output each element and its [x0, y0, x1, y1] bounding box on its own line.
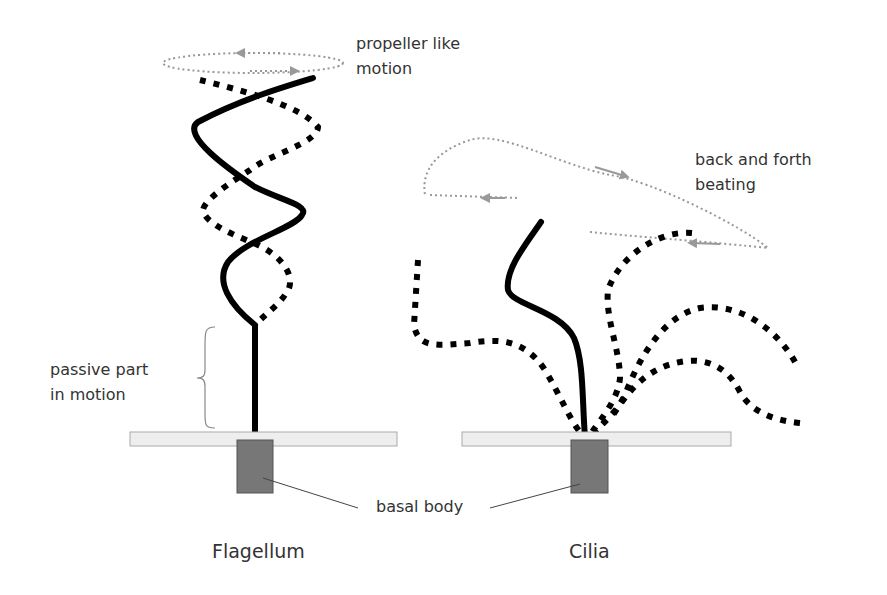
flagellum-basal-body [237, 440, 273, 493]
beating-arrow-right [595, 167, 625, 176]
propeller-label-line1: propeller like [356, 34, 460, 53]
propeller-label-line2: motion [356, 59, 412, 78]
flagellum-group [130, 53, 397, 508]
beating-arrow-return [692, 243, 720, 244]
cilia-basal-pointer [490, 484, 580, 508]
cilia-dashed-position-2 [592, 233, 692, 432]
basal-body-label: basal body [376, 497, 463, 516]
propeller-motion-ellipse [163, 53, 343, 73]
flagellum-cilia-diagram: propeller like motion back and forth bea… [0, 0, 887, 595]
passive-part-brace [197, 327, 215, 428]
flagellum-caption: Flagellum [212, 540, 305, 562]
cilia-caption: Cilia [569, 540, 610, 562]
flagellum-solid-helix [194, 78, 313, 325]
cilia-solid-position [508, 222, 585, 437]
passive-label-line2: in motion [50, 385, 126, 404]
beating-label-line1: back and forth [695, 150, 812, 169]
flagellum-basal-pointer [263, 478, 358, 508]
cilia-dashed-position-3 [595, 307, 795, 432]
cilia-dashed-position-4 [610, 361, 800, 423]
passive-label-line1: passive part [50, 360, 148, 379]
cilia-dashed-positions [414, 233, 800, 432]
beating-label-line2: beating [695, 175, 756, 194]
cilia-dashed-position-1 [414, 260, 580, 432]
flagellum-dashed-helix [200, 80, 318, 325]
